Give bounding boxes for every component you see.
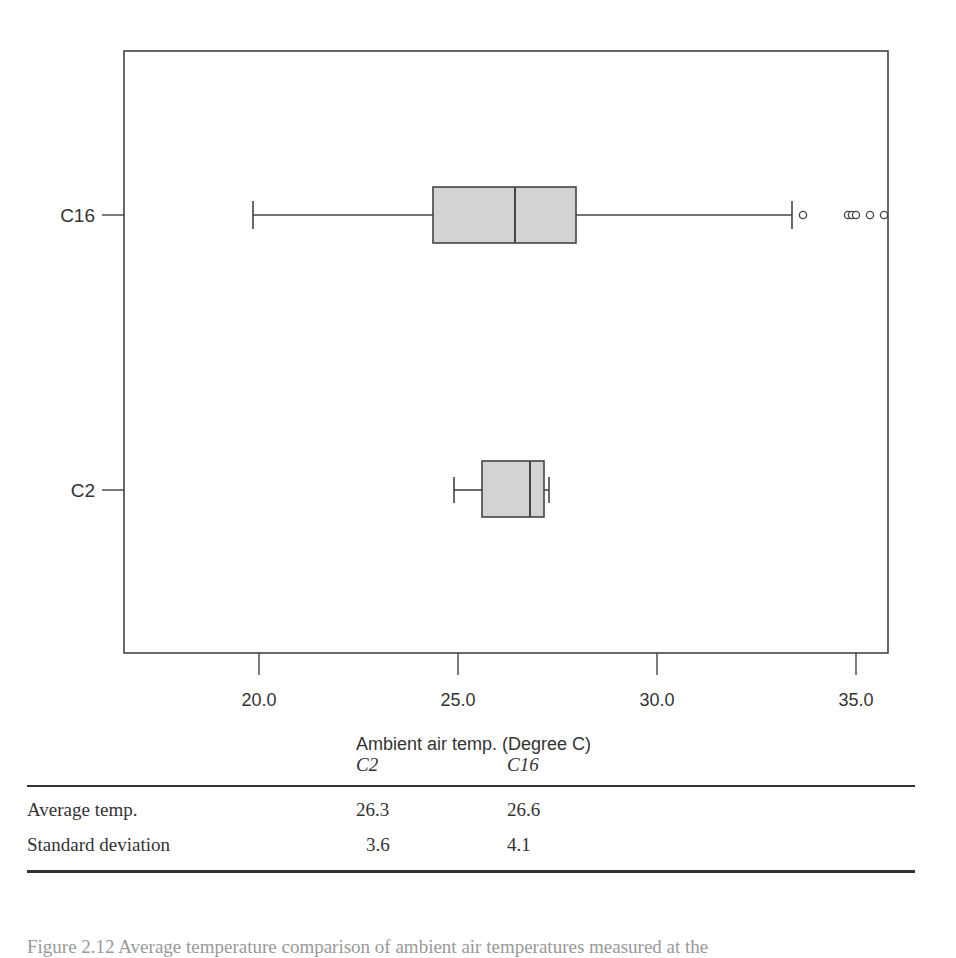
x-tick-label: 30.0	[639, 690, 674, 710]
figure-caption: Figure 2.12 Average temperature comparis…	[27, 936, 708, 958]
x-tick-label: 20.0	[241, 690, 276, 710]
table-row-label: Standard deviation	[27, 834, 170, 856]
table-cell-c2: 3.6	[366, 834, 390, 856]
table-top-rule	[27, 785, 915, 787]
x-tick-label: 35.0	[838, 690, 873, 710]
x-axis	[259, 653, 856, 675]
plot-frame	[124, 51, 888, 653]
x-axis-label-text: Ambient air temp. (Degree C)	[356, 734, 591, 755]
table-cell-c16: 26.6	[507, 799, 540, 821]
x-tick-label: 25.0	[440, 690, 475, 710]
table-bottom-rule	[27, 870, 915, 873]
table-cell-c16: 4.1	[507, 834, 531, 856]
box-c16	[253, 187, 792, 243]
outliers-c16	[799, 211, 887, 218]
table-header-c2: C2	[356, 754, 378, 776]
table-header-c16: C16	[507, 754, 539, 776]
boxplot-chart: C16 C2 20.0 25.0 30.0 35.0	[0, 0, 956, 720]
y-label-c16: C16	[60, 205, 95, 226]
table-cell-c2: 26.3	[356, 799, 389, 821]
table-row-label: Average temp.	[27, 799, 137, 821]
y-axis	[102, 215, 124, 490]
box-c2	[454, 461, 549, 517]
y-label-c2: C2	[71, 480, 95, 501]
